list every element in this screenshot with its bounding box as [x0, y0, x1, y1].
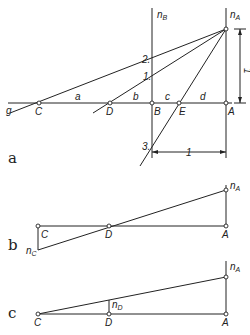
label-C: C	[35, 106, 43, 117]
label-C-b: C	[41, 229, 49, 240]
nomogram-diagram: nB nA g C D B E A a b c d 2. 1. 3. 1 1 a…	[0, 0, 250, 335]
panel-b: nA nC C D A b	[8, 180, 241, 257]
panel-c: nA nD C D A c	[8, 261, 241, 328]
label-C-c: C	[34, 317, 42, 328]
intersection-3: 3.	[142, 141, 150, 152]
label-nC: nC	[26, 245, 38, 257]
segment-b: b	[133, 91, 139, 102]
label-B: B	[154, 106, 161, 117]
label-E: E	[179, 106, 186, 117]
label-nA-c: nA	[230, 261, 241, 273]
intersection-2: 2.	[141, 54, 150, 65]
segment-c: c	[165, 91, 170, 102]
label-nA-b: nA	[230, 180, 241, 192]
label-A-c: A	[221, 317, 229, 328]
segment-d: d	[200, 91, 206, 102]
panel-label-b: b	[8, 236, 18, 254]
dimension-horizontal-1: 1	[186, 147, 192, 158]
label-nD: nD	[112, 299, 123, 311]
intersection-1: 1.	[143, 71, 151, 82]
label-A-b: A	[221, 229, 229, 240]
panel-a: nB nA g C D B E A a b c d 2. 1. 3. 1 1 a	[6, 8, 250, 167]
label-D-b: D	[105, 229, 112, 240]
panel-label-a: a	[8, 149, 17, 167]
label-nA: nA	[230, 9, 241, 21]
segment-a: a	[75, 91, 81, 102]
label-nB: nB	[157, 9, 168, 21]
label-A: A	[227, 106, 235, 117]
label-D: D	[106, 106, 113, 117]
dimension-vertical-1: 1	[242, 68, 250, 74]
label-D-c: D	[105, 317, 112, 328]
panel-label-c: c	[8, 304, 16, 322]
label-g: g	[6, 105, 12, 116]
